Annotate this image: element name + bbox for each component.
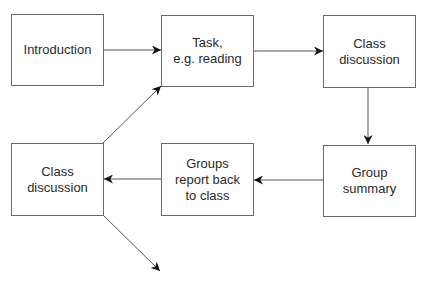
node-group-summary: Group summary: [323, 145, 416, 217]
node-task: Task, e.g. reading: [161, 15, 254, 87]
node-label-line: summary: [343, 181, 396, 197]
node-label-line: Task,: [192, 35, 222, 51]
node-label-line: Groups: [186, 156, 229, 172]
node-introduction: Introduction: [11, 14, 104, 86]
node-label: Introduction: [24, 42, 92, 58]
arrow-class-discussion-onward: [103, 215, 160, 271]
node-label-line: e.g. reading: [173, 51, 242, 67]
node-label-line: to class: [185, 188, 229, 204]
arrow-class-discussion-to-task: [103, 86, 161, 143]
node-label-line: discussion: [339, 52, 400, 68]
node-label-line: discussion: [27, 180, 88, 196]
flow-diagram: Introduction Task, e.g. reading Class di…: [0, 0, 425, 285]
node-class-discussion-1: Class discussion: [323, 15, 416, 88]
node-class-discussion-2: Class discussion: [11, 143, 104, 216]
node-label-line: report back: [175, 172, 240, 188]
node-groups-report: Groups report back to class: [161, 143, 254, 216]
node-label-line: Group: [351, 165, 387, 181]
node-label-line: Class: [353, 36, 386, 52]
node-label-line: Class: [41, 164, 74, 180]
